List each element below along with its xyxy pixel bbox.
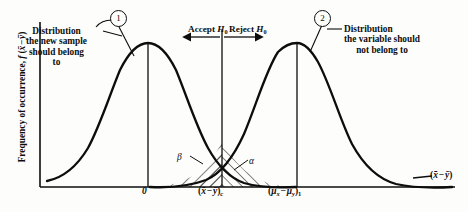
beta-leader: [190, 156, 203, 164]
beta-symbol: β: [177, 152, 182, 162]
beta-region: [150, 142, 222, 187]
reject-h0-label: Reject H0: [229, 24, 267, 35]
callout-1-line-3: should belong: [26, 47, 87, 57]
alpha-region: [222, 142, 292, 187]
tick-label-origin: 0: [142, 186, 147, 196]
tick-label-mean-2: (μx − μy)1: [268, 186, 301, 197]
alpha-symbol: α: [249, 156, 254, 166]
accept-h0-label: Accept H0: [188, 24, 228, 35]
callout-2-leader: [310, 25, 322, 52]
curve-distribution-2: [150, 43, 452, 188]
callout-marker-1: 1: [110, 10, 127, 27]
tick-label-critical: (x̄ − ȳ)c: [198, 186, 223, 197]
callout-1-line-4: to: [26, 57, 87, 67]
callout-marker-2: 2: [314, 10, 331, 27]
callout-2-line-3: not belong to: [344, 45, 420, 55]
callout-2-line-1: Distribution: [344, 24, 420, 34]
callout-1-leader: [118, 25, 134, 56]
callout-1-text-leader: [103, 31, 122, 36]
callout-2-text: Distribution the variable should not bel…: [344, 24, 420, 55]
y-axis-label: Frequency of occurrence, f (x̄ − ȳ): [17, 12, 27, 182]
callout-1-line-1: Distribution: [26, 26, 87, 36]
x-axis-label: (x̄ − ȳ): [430, 170, 452, 180]
callout-1-text: Distribution the new sample should belon…: [26, 26, 87, 68]
callout-1-line-2: the new sample: [26, 36, 87, 46]
callout-2-line-2: the variable should: [344, 34, 420, 44]
